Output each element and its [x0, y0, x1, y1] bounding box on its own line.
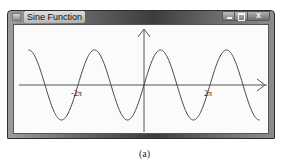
sine-function-window: Sine Function x -2π 2π [7, 10, 275, 139]
x-label-2pi: 2π [204, 89, 212, 98]
x-label-neg-2pi: -2π [71, 89, 82, 98]
maximize-button[interactable] [235, 11, 248, 21]
window-title: Sine Function [24, 11, 85, 23]
figure-caption: (a) [0, 148, 289, 159]
sine-plot: -2π 2π [14, 25, 268, 133]
minimize-button[interactable] [222, 11, 235, 21]
close-icon: x [248, 10, 269, 20]
title-bar[interactable]: Sine Function x [8, 11, 274, 24]
window-controls: x [222, 11, 270, 21]
close-button[interactable]: x [248, 11, 270, 21]
plot-canvas: -2π 2π [13, 24, 269, 134]
app-icon[interactable] [12, 13, 21, 21]
